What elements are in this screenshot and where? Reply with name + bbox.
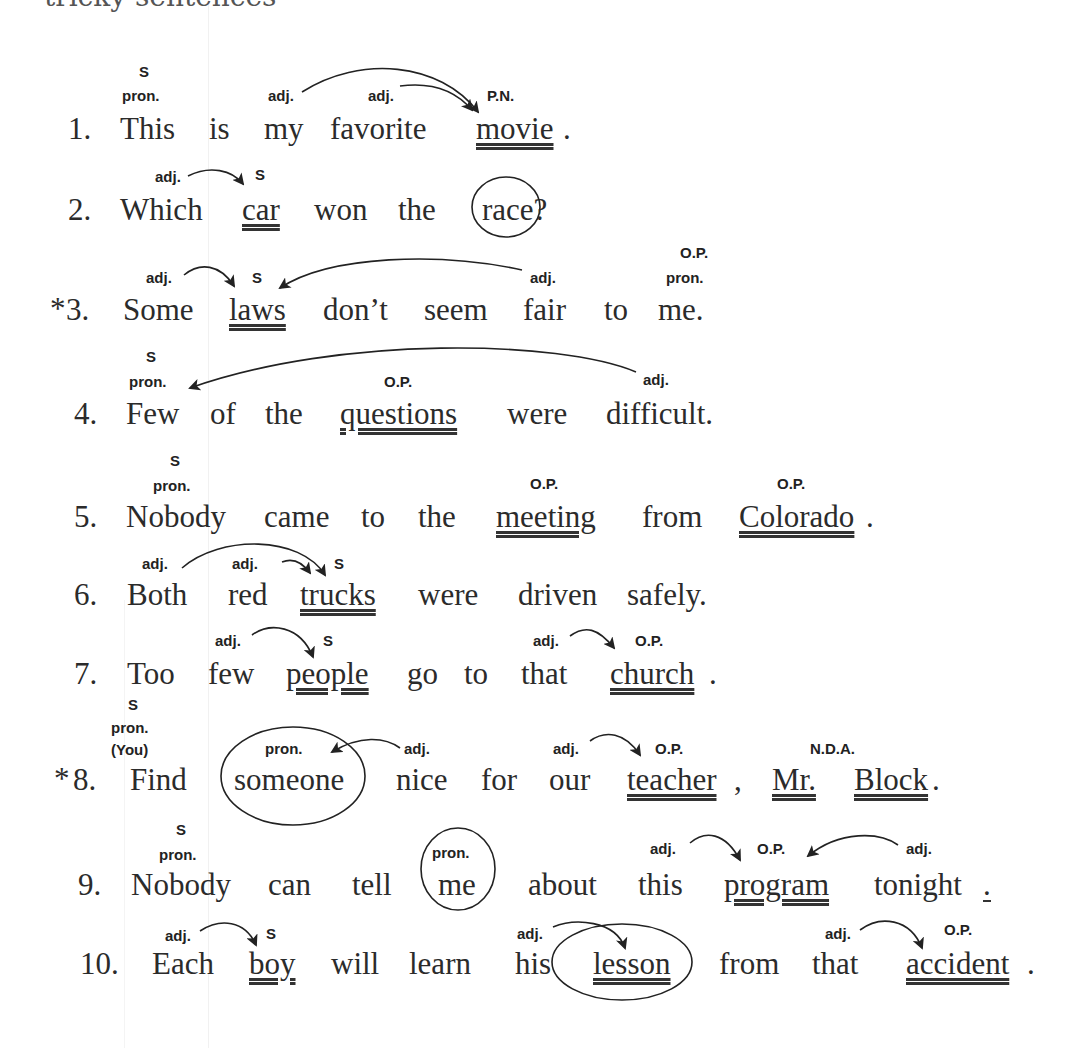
label-adjective: adj. — [825, 926, 851, 941]
label-adjective: adj. — [142, 556, 168, 571]
sentence-number: 2. — [68, 194, 91, 225]
word: favorite — [330, 113, 426, 144]
punctuation: . — [563, 113, 571, 144]
word-object-circled: race? — [482, 194, 547, 225]
label-adjective: adj. — [268, 88, 294, 103]
word: of — [210, 398, 236, 429]
arrow-icon — [690, 835, 740, 860]
label-pronoun: pron. — [265, 741, 303, 756]
arrow-icon — [280, 259, 522, 288]
word: difficult. — [606, 398, 713, 429]
label-pronoun: pron. — [153, 478, 191, 493]
punctuation: . — [983, 869, 991, 902]
arrow-icon — [184, 267, 234, 286]
label-adjective: adj. — [368, 88, 394, 103]
punctuation: . — [866, 501, 874, 532]
label-adjective: adj. — [643, 372, 669, 387]
sentence-number: 7. — [74, 658, 97, 689]
sentence-number: 4. — [74, 398, 97, 429]
word: driven — [518, 579, 597, 610]
worksheet-page: tricky sentences — [0, 0, 1090, 1048]
label-object-preposition: O.P. — [944, 922, 972, 937]
arrow-icon — [188, 170, 243, 184]
label-pronoun: pron. — [666, 270, 704, 285]
label-pronoun: pron. — [159, 847, 197, 862]
label-subject: S — [323, 633, 333, 648]
label-pronoun: pron. — [432, 845, 470, 860]
word: my — [264, 113, 304, 144]
sentence-number: 3. — [66, 294, 89, 325]
label-object-preposition: O.P. — [655, 741, 683, 756]
word: seem — [424, 294, 488, 325]
arrow-icon — [332, 739, 400, 752]
label-adjective: adj. — [517, 926, 543, 941]
word: our — [549, 764, 590, 795]
word: for — [481, 764, 517, 795]
word: this — [638, 869, 683, 900]
word: Too — [127, 658, 175, 689]
arrow-icon — [860, 921, 922, 948]
arrow-icon — [252, 628, 313, 657]
label-predicate-noun: P.N. — [487, 88, 514, 103]
label-adjective: adj. — [906, 841, 932, 856]
word-subject: trucks — [300, 579, 376, 610]
word-object-preposition: church — [610, 658, 694, 689]
word: Find — [130, 764, 187, 795]
arrow-icon — [200, 923, 256, 945]
word: came — [264, 501, 329, 532]
label-subject: S — [128, 697, 138, 712]
label-adjective: adj. — [155, 169, 181, 184]
sentence-number: 8. — [73, 764, 96, 795]
word: from — [642, 501, 702, 532]
word-direct-address: Block — [854, 764, 928, 795]
label-noun-direct-address: N.D.A. — [810, 741, 855, 756]
word-object-preposition: Colorado — [739, 501, 854, 532]
label-subject: S — [252, 270, 262, 285]
word: go — [407, 658, 438, 689]
label-subject: S — [266, 926, 276, 941]
label-adjective: adj. — [146, 270, 172, 285]
word: Few — [126, 398, 179, 429]
label-adjective: adj. — [530, 270, 556, 285]
word: can — [268, 869, 311, 900]
label-object-preposition: O.P. — [635, 633, 663, 648]
word: fair — [523, 294, 566, 325]
arrow-icon — [400, 85, 472, 110]
word: is — [209, 113, 230, 144]
punctuation: . — [1027, 948, 1035, 979]
word: were — [418, 579, 478, 610]
sentence-number: 1. — [68, 113, 91, 144]
word: the — [398, 194, 436, 225]
word-object-preposition: meeting — [496, 501, 596, 532]
label-subject: S — [255, 167, 265, 182]
arrow-icon — [590, 735, 640, 755]
word: to — [604, 294, 628, 325]
word-object-preposition: teacher — [627, 764, 716, 795]
word: from — [719, 948, 779, 979]
punctuation: . — [709, 658, 717, 689]
word: won — [314, 194, 367, 225]
label-subject: S — [146, 349, 156, 364]
label-object-preposition: O.P. — [777, 476, 805, 491]
word-subject: laws — [229, 294, 286, 325]
label-object-preposition: O.P. — [384, 374, 412, 389]
word-direct-address: Mr. — [772, 764, 816, 795]
sentence-number: 6. — [74, 579, 97, 610]
label-subject: S — [170, 453, 180, 468]
word-circled: me — [438, 869, 476, 900]
word: his — [515, 948, 551, 979]
word: about — [528, 869, 597, 900]
word: me. — [658, 294, 704, 325]
word-circled: lesson — [593, 948, 671, 979]
word-subject: people — [286, 658, 369, 689]
label-understood-you: (You) — [111, 742, 148, 757]
word: the — [418, 501, 456, 532]
label-pronoun: pron. — [111, 720, 149, 735]
word: few — [208, 658, 254, 689]
label-adjective: adj. — [215, 633, 241, 648]
label-adjective: adj. — [165, 928, 191, 943]
arrow-icon — [282, 560, 310, 573]
word: Nobody — [126, 501, 226, 532]
sentence-number: 10. — [80, 948, 119, 979]
sentence-number: 5. — [74, 501, 97, 532]
